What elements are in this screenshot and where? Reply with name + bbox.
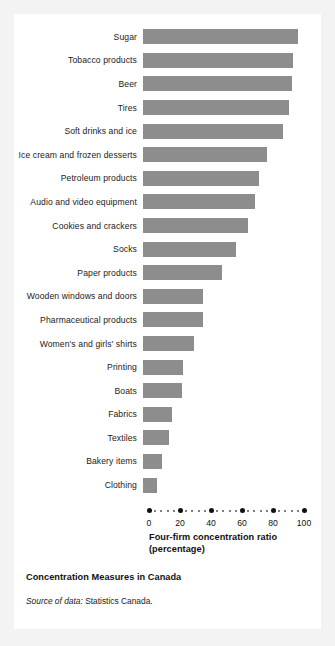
x-axis-minor-dot [222,510,224,512]
chart-row: Tires [0,96,335,120]
bar [143,289,203,304]
x-axis-tick-dots [149,508,309,516]
bar-track [143,360,335,375]
x-axis-minor-dot [278,510,280,512]
bar-track [143,124,335,139]
bar-category-label: Audio and video equipment [0,197,143,207]
chart-row: Ice cream and frozen desserts [0,143,335,167]
chart-row: Petroleum products [0,167,335,191]
bar-category-label: Tires [0,103,143,113]
x-axis-minor-dot [198,510,200,512]
x-axis-minor-dot [167,510,169,512]
bar-category-label: Petroleum products [0,173,143,183]
x-axis-tick-dot [302,508,307,513]
bar [143,383,182,398]
bar [143,242,236,257]
bar-category-label: Soft drinks and ice [0,126,143,136]
x-axis-title-line2: (percentage) [149,544,329,556]
bar [143,147,267,162]
bar-track [143,76,335,91]
x-axis-minor-dot [154,510,156,512]
bar-track [143,100,335,115]
x-axis-minor-dot [284,510,286,512]
figure-container: SugarTobacco productsBeerTiresSoft drink… [0,0,335,646]
chart-row: Paper products [0,261,335,285]
bar-track [143,194,335,209]
x-axis-minor-dot [160,510,162,512]
bar-track [143,53,335,68]
chart-row: Audio and video equipment [0,190,335,214]
chart-row: Printing [0,355,335,379]
x-axis-tick-dot [271,508,276,513]
bar-track [143,454,335,469]
chart-row: Fabrics [0,403,335,427]
bar [143,29,298,44]
x-axis-tick-label: 0 [147,518,152,529]
bar [143,454,162,469]
bar-category-label: Socks [0,244,143,254]
bar-track [143,289,335,304]
bar-track [143,430,335,445]
x-axis-tick-dot [209,508,214,513]
bar [143,478,157,493]
x-axis-tick-dot [240,508,245,513]
x-axis-minor-dot [204,510,206,512]
x-axis-minor-dot [229,510,231,512]
bar-category-label: Cookies and crackers [0,221,143,231]
chart-row: Bakery items [0,450,335,474]
x-axis-minor-dot [260,510,262,512]
x-axis-tick-label: 100 [297,518,311,529]
x-axis-minor-dot [235,510,237,512]
bar [143,76,292,91]
x-axis-minor-dot [291,510,293,512]
bar-track [143,478,335,493]
x-axis-title-line1: Four-firm concentration ratio [149,532,329,544]
x-axis-minor-dot [247,510,249,512]
x-axis-minor-dot [185,510,187,512]
bar-category-label: Ice cream and frozen desserts [0,150,143,160]
x-axis-minor-dot [173,510,175,512]
bar-track [143,336,335,351]
x-axis-minor-dot [216,510,218,512]
bar-category-label: Beer [0,79,143,89]
bar [143,407,172,422]
bar-category-label: Textiles [0,433,143,443]
x-axis-tick-label: 40 [206,518,216,529]
bar-category-label: Tobacco products [0,55,143,65]
source-label: Source of data: [26,596,83,606]
bar-category-label: Sugar [0,32,143,42]
chart-row: Pharmaceutical products [0,308,335,332]
chart-row: Boats [0,379,335,403]
x-axis-minor-dot [297,510,299,512]
bar-chart-plot: SugarTobacco productsBeerTiresSoft drink… [0,25,335,497]
bar-category-label: Pharmaceutical products [0,315,143,325]
bar-category-label: Women's and girls' shirts [0,339,143,349]
bar [143,171,259,186]
bar-track [143,147,335,162]
bar [143,53,293,68]
bar-track [143,171,335,186]
bar [143,194,255,209]
bar-category-label: Paper products [0,268,143,278]
bar-category-label: Fabrics [0,409,143,419]
bar [143,124,283,139]
bar-category-label: Clothing [0,480,143,490]
bar-track [143,265,335,280]
figure-caption-title: Concentration Measures in Canada [26,572,181,582]
bar [143,218,248,233]
bar-category-label: Boats [0,386,143,396]
chart-row: Socks [0,237,335,261]
bar [143,100,289,115]
chart-row: Wooden windows and doors [0,285,335,309]
bar-category-label: Printing [0,362,143,372]
x-axis-title: Four-firm concentration ratio (percentag… [149,532,329,555]
chart-row: Beer [0,72,335,96]
x-axis-tick-label: 20 [175,518,185,529]
bar [143,336,194,351]
bar-track [143,383,335,398]
chart-row: Sugar [0,25,335,49]
chart-row: Clothing [0,473,335,497]
x-axis-tick-labels: 020406080100 [149,518,309,530]
figure-content: SugarTobacco productsBeerTiresSoft drink… [0,0,335,646]
bar-track [143,218,335,233]
